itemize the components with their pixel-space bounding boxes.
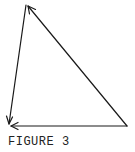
edge-top-to-bottom-left bbox=[9, 5, 26, 124]
triangle-vector-diagram bbox=[0, 0, 135, 132]
edge-bottom-right-to-top bbox=[28, 6, 127, 126]
figure-caption: FIGURE 3 bbox=[8, 135, 70, 149]
